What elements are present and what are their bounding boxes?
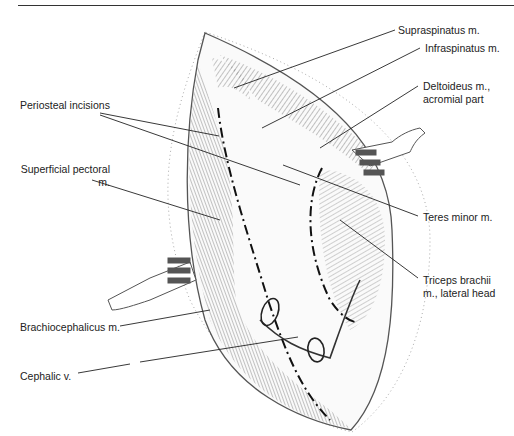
label-teres-minor: Teres minor m.	[423, 211, 492, 224]
label-deltoideus-line2: acromial part	[423, 93, 490, 106]
label-cephalic-vein: Cephalic v.	[20, 370, 71, 383]
label-deltoideus: Deltoideus m., acromial part	[423, 80, 490, 106]
retractor-left	[108, 258, 196, 310]
label-superficial-pectoral-line2: m.	[20, 176, 110, 189]
label-supraspinatus: Supraspinatus m.	[398, 24, 480, 37]
label-superficial-pectoral: Superficial pectoral m.	[20, 163, 110, 189]
label-triceps-line2: m., lateral head	[423, 287, 495, 300]
label-periosteal-incisions: Periosteal incisions	[20, 99, 110, 112]
label-superficial-pectoral-line1: Superficial pectoral	[20, 163, 110, 176]
label-triceps: Triceps brachii m., lateral head	[423, 274, 495, 300]
label-deltoideus-line1: Deltoideus m.,	[423, 80, 490, 93]
label-infraspinatus: Infraspinatus m.	[425, 42, 500, 55]
label-brachiocephalicus: Brachiocephalicus m.	[20, 321, 120, 334]
label-triceps-line1: Triceps brachii	[423, 274, 495, 287]
